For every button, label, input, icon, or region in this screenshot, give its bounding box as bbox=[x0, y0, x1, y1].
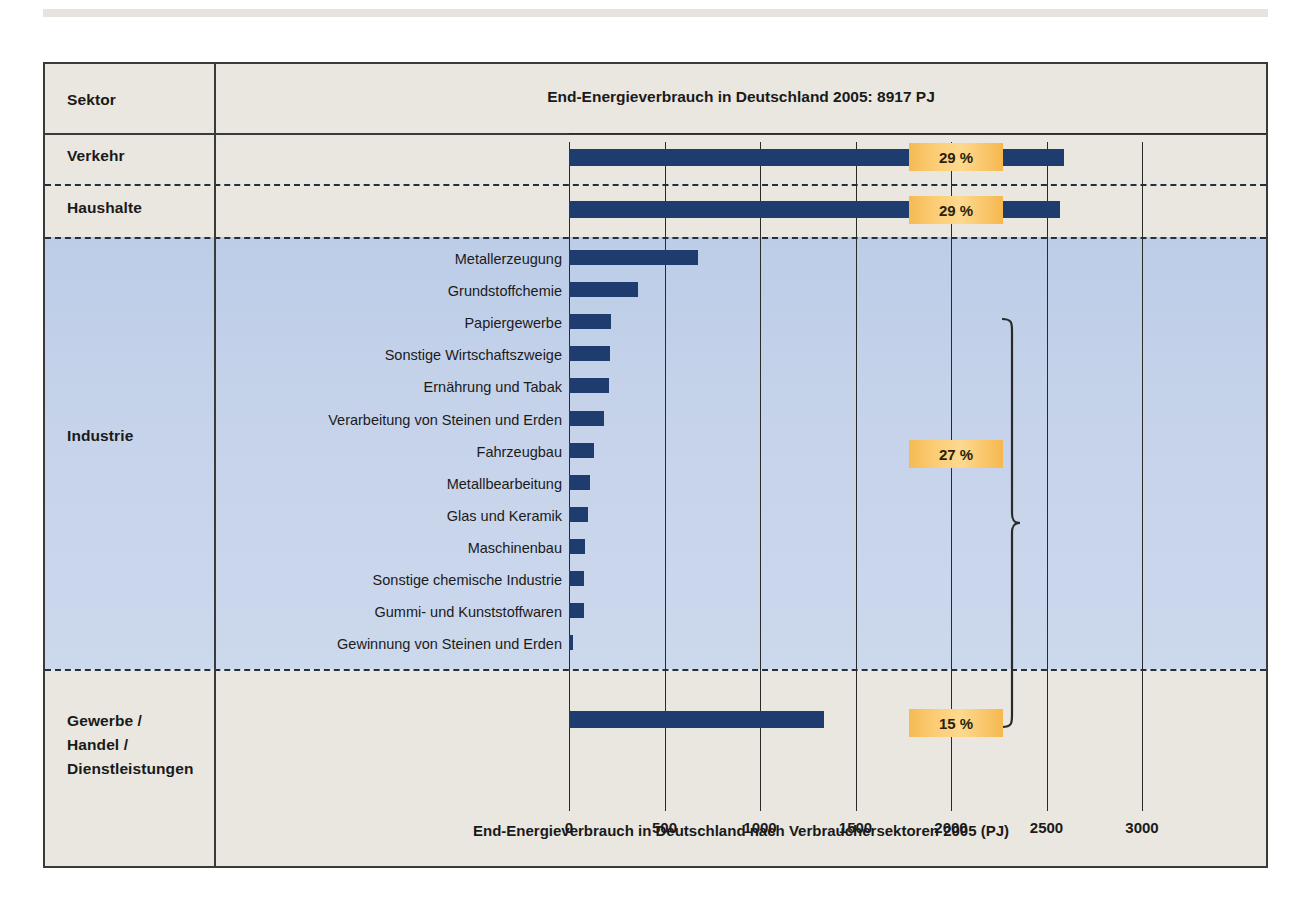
sector-label-gewerbe-line2: Handel / bbox=[67, 733, 193, 757]
bar-industry-11 bbox=[569, 603, 584, 618]
sector-label-industrie: Industrie bbox=[67, 424, 133, 448]
gridline-500 bbox=[665, 142, 666, 802]
badge-verkehr: 29 % bbox=[909, 143, 1003, 171]
industry-brace-icon bbox=[1000, 317, 1022, 729]
sector-label-haushalte: Haushalte bbox=[67, 196, 142, 220]
plot-area: MetallerzeugungGrundstoffchemiePapiergew… bbox=[216, 133, 1266, 802]
bar-industry-8 bbox=[569, 507, 588, 522]
xtick-2000 bbox=[951, 802, 952, 811]
industry-label-12: Gewinnung von Steinen und Erden bbox=[337, 637, 569, 652]
column-header-sektor: Sektor bbox=[67, 88, 116, 112]
badge-gewerbe: 15 % bbox=[909, 709, 1003, 737]
gridline-2000 bbox=[951, 142, 952, 802]
bar-industry-10 bbox=[569, 571, 584, 586]
industry-label-2: Papiergewerbe bbox=[464, 316, 569, 331]
page-top-rule bbox=[43, 9, 1268, 17]
bar-industry-9 bbox=[569, 539, 585, 554]
xtick-3000 bbox=[1142, 802, 1143, 811]
gridline-2500 bbox=[1047, 142, 1048, 802]
gridline-0 bbox=[569, 142, 570, 802]
bar-gewerbe bbox=[569, 711, 824, 728]
industry-label-11: Gummi- und Kunststoffwaren bbox=[374, 605, 569, 620]
badge-industrie: 27 % bbox=[909, 440, 1003, 468]
gridline-3000 bbox=[1142, 142, 1143, 802]
bar-industry-5 bbox=[569, 411, 604, 426]
x-axis-line bbox=[569, 133, 1266, 134]
bar-industry-7 bbox=[569, 475, 590, 490]
chart-frame: Sektor Verkehr Haushalte Industrie Gewer… bbox=[43, 62, 1268, 868]
sector-label-gewerbe-line3: Dienstleistungen bbox=[67, 757, 193, 781]
xtick-500 bbox=[665, 802, 666, 811]
bar-industry-2 bbox=[569, 314, 611, 329]
bar-industry-12 bbox=[569, 635, 573, 650]
industry-label-6: Fahrzeugbau bbox=[477, 445, 569, 460]
industry-label-5: Verarbeitung von Steinen und Erden bbox=[328, 413, 569, 428]
xtick-1000 bbox=[760, 802, 761, 811]
industry-label-7: Metallbearbeitung bbox=[447, 477, 569, 492]
industry-label-3: Sonstige Wirtschaftszweige bbox=[385, 348, 569, 363]
sector-label-gewerbe: Gewerbe / Handel / Dienstleistungen bbox=[67, 709, 193, 781]
x-axis-caption: End-Energieverbrauch in Deutschland nach… bbox=[216, 822, 1266, 839]
industry-label-8: Glas und Keramik bbox=[447, 509, 569, 524]
industry-label-10: Sonstige chemische Industrie bbox=[373, 573, 569, 588]
sector-label-gewerbe-line1: Gewerbe / bbox=[67, 709, 193, 733]
industry-label-9: Maschinenbau bbox=[468, 541, 569, 556]
sector-label-verkehr: Verkehr bbox=[67, 144, 125, 168]
chart-title: End-Energieverbrauch in Deutschland 2005… bbox=[216, 88, 1266, 106]
xtick-1500 bbox=[856, 802, 857, 811]
bar-industry-3 bbox=[569, 346, 610, 361]
industry-label-0: Metallerzeugung bbox=[455, 252, 569, 267]
bar-industry-4 bbox=[569, 378, 609, 393]
xtick-0 bbox=[569, 802, 570, 811]
industry-label-4: Ernährung und Tabak bbox=[424, 380, 569, 395]
gridline-1000 bbox=[760, 142, 761, 802]
bar-industry-1 bbox=[569, 282, 638, 297]
badge-haushalte: 29 % bbox=[909, 196, 1003, 224]
gridline-1500 bbox=[856, 142, 857, 802]
xtick-2500 bbox=[1047, 802, 1048, 811]
bar-industry-6 bbox=[569, 443, 594, 458]
industry-label-1: Grundstoffchemie bbox=[448, 284, 569, 299]
bar-industry-0 bbox=[569, 250, 698, 265]
